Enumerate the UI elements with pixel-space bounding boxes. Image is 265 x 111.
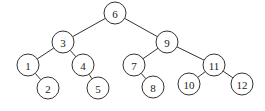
edge-6-3 <box>73 18 106 36</box>
edge-11-12 <box>223 71 233 78</box>
edge-4-5 <box>89 74 92 79</box>
tree-nodes: 639147112581012 <box>17 2 253 99</box>
tree-node-10: 10 <box>178 73 200 95</box>
edge-11-10 <box>198 72 205 78</box>
tree-node-7: 7 <box>123 54 145 76</box>
edge-9-11 <box>177 47 204 60</box>
tree-node-2: 2 <box>37 77 59 99</box>
node-label: 12 <box>237 79 248 91</box>
node-label: 2 <box>45 83 51 95</box>
tree-node-5: 5 <box>87 77 109 99</box>
node-label: 7 <box>131 60 137 72</box>
edge-3-4 <box>70 50 76 56</box>
edge-1-2 <box>35 73 41 79</box>
tree-node-8: 8 <box>142 76 164 98</box>
tree-node-3: 3 <box>52 31 74 53</box>
edge-7-8 <box>141 73 146 78</box>
tree-node-1: 1 <box>17 54 39 76</box>
node-label: 3 <box>60 37 66 49</box>
node-label: 11 <box>209 60 220 72</box>
tree-node-9: 9 <box>156 31 178 53</box>
tree-node-11: 11 <box>203 54 225 76</box>
edge-6-9 <box>125 18 158 36</box>
node-label: 9 <box>164 37 170 49</box>
node-label: 8 <box>150 82 156 94</box>
tree-node-12: 12 <box>231 73 253 95</box>
node-label: 10 <box>184 79 196 91</box>
node-label: 4 <box>80 60 86 72</box>
node-label: 6 <box>112 8 118 20</box>
edge-9-7 <box>143 48 158 58</box>
binary-tree-diagram: 639147112581012 <box>0 0 265 111</box>
node-label: 5 <box>95 83 101 95</box>
node-label: 1 <box>25 60 31 72</box>
tree-node-4: 4 <box>72 54 94 76</box>
tree-node-6: 6 <box>104 2 126 24</box>
edge-3-1 <box>37 48 54 59</box>
